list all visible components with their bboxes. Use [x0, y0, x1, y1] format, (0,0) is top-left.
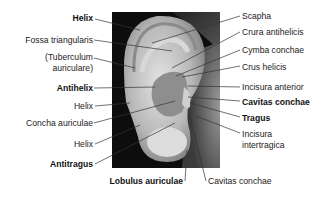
label-incisura-line2: intertragica: [242, 140, 285, 150]
label-crus-helicis: Crus helicis: [242, 62, 286, 72]
label-fossa-triangularis: Fossa triangularis: [25, 35, 93, 45]
label-antihelix: Antihelix: [57, 83, 93, 93]
label-helix-middle: Helix: [74, 101, 93, 111]
label-tragus: Tragus: [242, 113, 270, 123]
label-helix-lower: Helix: [74, 139, 93, 149]
label-crura-antihelicis: Crura antihelicis: [242, 27, 304, 37]
label-tuberculum-line1: (Tuberculum: [45, 52, 93, 62]
label-cymba-conchae: Cymba conchae: [242, 45, 304, 55]
label-helix-top: Helix: [72, 13, 93, 23]
label-incisura-line1: Incisura: [242, 129, 272, 139]
label-cavitas-conchae-bottom: Cavitas conchae: [208, 176, 272, 186]
label-concha-auriculae: Concha auriculae: [26, 118, 93, 128]
label-tuberculum-line2: auriculare): [52, 63, 93, 73]
label-incisura-anterior: Incisura anterior: [242, 82, 304, 92]
label-cavitas-conchae-right: Cavitas conchae: [242, 97, 310, 107]
label-antitragus: Antitragus: [50, 159, 93, 169]
label-lobulus-auriculae: Lobulus auriculae: [109, 176, 183, 186]
label-scapha: Scapha: [242, 11, 271, 21]
